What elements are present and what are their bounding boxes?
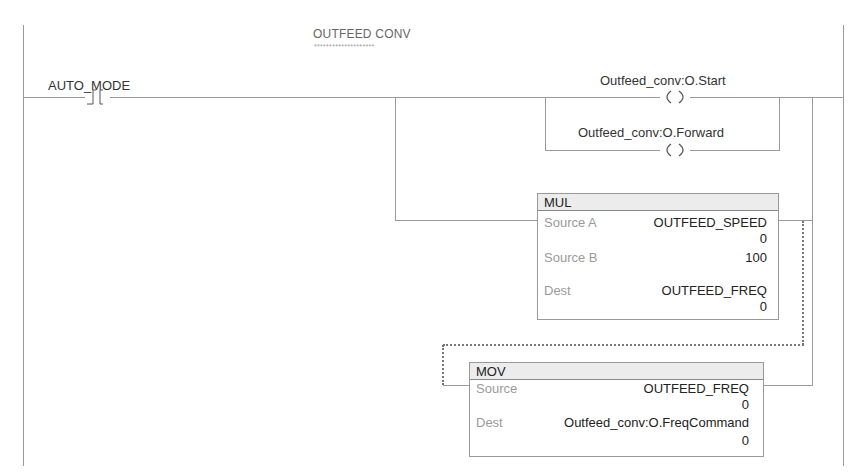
mov-source-value: 0 [742,397,749,412]
mul-dest-label: Dest [544,283,571,298]
main-rung-wire-right [690,97,843,98]
mov-dest-label: Dest [476,415,503,430]
ote-coil-forward-icon[interactable] [660,142,690,158]
rung-comment-underline: ******************** [314,43,374,50]
left-power-rail [23,25,24,466]
mov-dest-tag[interactable]: Outfeed_conv:O.FreqCommand [564,415,749,430]
coil-start-label: Outfeed_conv:O.Start [600,73,726,88]
mul-source-b-label: Source B [544,250,597,265]
main-rung-wire-left [23,97,85,98]
right-power-rail [843,25,844,466]
mov-input-wire [443,385,469,386]
mov-instruction-block[interactable]: MOV Source OUTFEED_FREQ 0 Dest Outfeed_c… [469,362,764,457]
mul-source-a-tag[interactable]: OUTFEED_SPEED [654,215,767,230]
mul-branch-left [395,97,396,220]
mov-output-wire [762,385,813,386]
mul-source-b-value[interactable]: 100 [745,250,767,265]
coil-forward-label: Outfeed_conv:O.Forward [578,125,724,140]
mul-dest-value: 0 [760,299,767,314]
rung-comment[interactable]: OUTFEED CONV [313,27,411,41]
series-link-horizontal [443,344,804,346]
mul-instruction-block[interactable]: MUL Source A OUTFEED_SPEED 0 Source B 10… [537,193,779,320]
mov-dest-value: 0 [742,433,749,448]
mov-source-tag[interactable]: OUTFEED_FREQ [644,381,749,396]
forward-branch-wire-left [545,150,660,151]
forward-branch-right [779,97,780,150]
series-link-vertical-left [442,345,444,385]
mov-instruction-name: MOV [470,363,763,380]
series-link-vertical-right [802,221,804,345]
mul-dest-tag[interactable]: OUTFEED_FREQ [662,283,767,298]
forward-branch-wire-right [690,150,780,151]
main-rung-wire-mid [110,97,660,98]
mul-instruction-name: MUL [538,194,778,211]
ote-coil-start-icon[interactable] [660,89,690,105]
mul-source-a-value: 0 [760,231,767,246]
mul-input-wire [395,220,537,221]
mul-source-a-label: Source A [544,215,597,230]
mov-source-label: Source [476,381,517,396]
forward-branch-left [545,97,546,150]
mul-output-wire [777,220,813,221]
right-branch-vertical [812,97,813,386]
xic-contact-icon[interactable] [85,89,111,105]
